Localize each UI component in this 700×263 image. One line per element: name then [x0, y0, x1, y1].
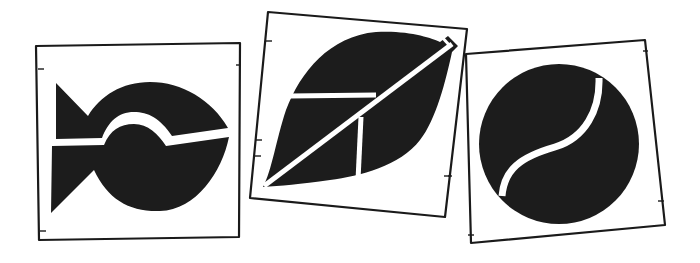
card-fish	[36, 43, 240, 240]
illustration	[0, 0, 700, 263]
card-ball	[444, 40, 665, 243]
card-leaf	[250, 12, 467, 217]
ball-icon	[479, 64, 639, 224]
